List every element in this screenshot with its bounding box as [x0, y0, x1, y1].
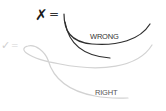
curve-diagram	[0, 0, 166, 111]
right-check-icon: ✓	[1, 39, 10, 52]
right-label: RIGHT	[95, 88, 117, 97]
wrong-x-icon: ✗	[35, 6, 48, 24]
wrong-label: WRONG	[90, 32, 119, 41]
wrong-equals-sign: =	[49, 7, 59, 21]
right-equals-sign: =	[11, 40, 19, 50]
